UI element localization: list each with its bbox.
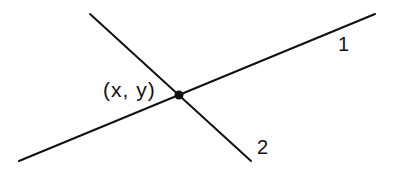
intersecting-lines-diagram: (x, y) 1 2 (0, 0, 396, 169)
diagram-svg (0, 0, 396, 169)
line-1 (19, 14, 375, 161)
line-1-label: 1 (338, 34, 349, 54)
line-2-label: 2 (257, 137, 268, 157)
intersection-label: (x, y) (103, 79, 156, 100)
intersection-point (175, 91, 184, 100)
